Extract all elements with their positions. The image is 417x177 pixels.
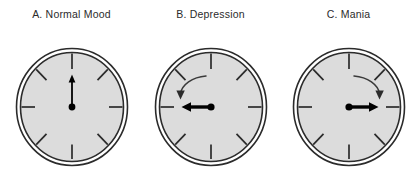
panel-normal-mood: A. Normal Mood	[2, 0, 141, 177]
clock-hub-b	[207, 103, 214, 110]
clock-face-c	[292, 47, 406, 167]
clock-depression	[154, 47, 268, 167]
panel-depression: B. Depression	[141, 0, 280, 177]
clock-normal-mood	[15, 47, 129, 167]
clock-face-a	[15, 47, 129, 167]
panel-mania: C. Mania	[279, 0, 417, 177]
clock-diagram-figure: A. Normal Mood	[0, 0, 417, 177]
panel-caption-c: C. Mania	[279, 8, 417, 20]
clock-mania	[292, 47, 406, 167]
clock-face-b	[154, 47, 268, 167]
clock-hub-c	[345, 103, 352, 110]
panel-caption-b: B. Depression	[141, 8, 280, 20]
clock-hub-a	[69, 104, 76, 111]
panel-caption-a: A. Normal Mood	[2, 8, 141, 20]
